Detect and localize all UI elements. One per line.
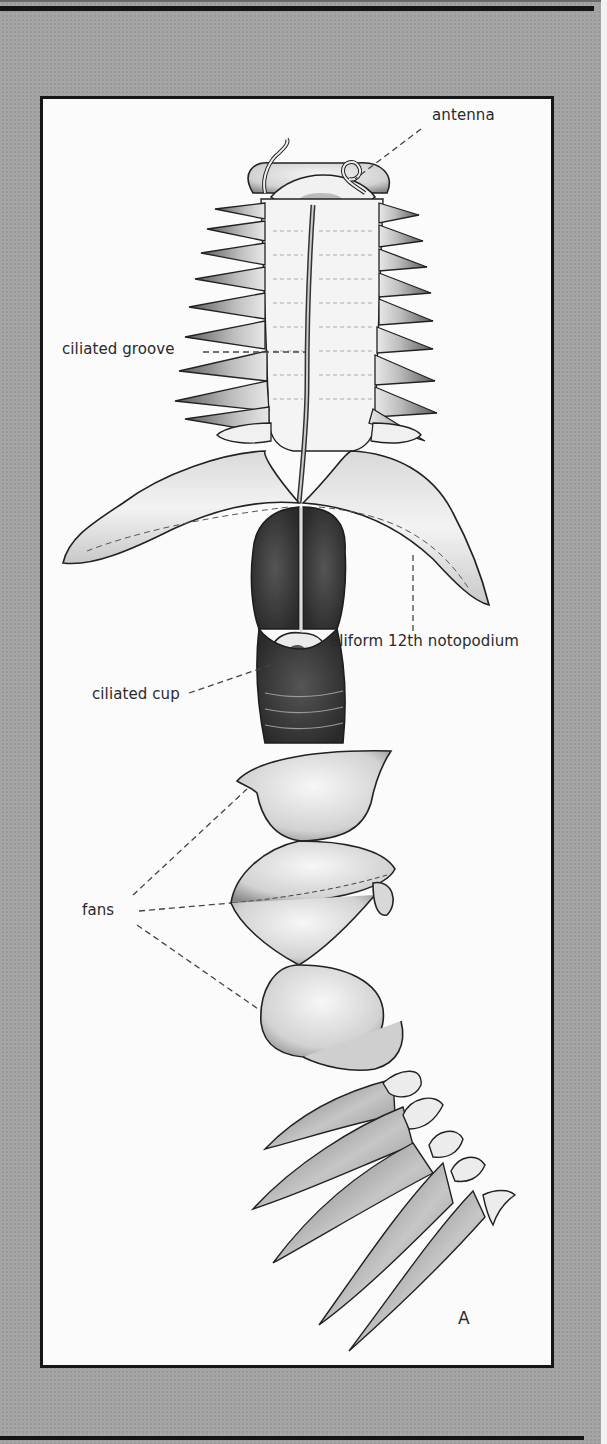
dark-segments bbox=[251, 507, 345, 743]
label-ciliated-groove: ciliated groove bbox=[62, 340, 175, 358]
label-antenna: antenna bbox=[432, 106, 495, 124]
label-fans: fans bbox=[82, 901, 114, 919]
worm-illustration bbox=[43, 99, 551, 1365]
fans-leader-2 bbox=[139, 903, 231, 911]
top-rule bbox=[0, 6, 594, 11]
left-notopodia bbox=[175, 203, 271, 443]
label-ciliated-cup: ciliated cup bbox=[92, 685, 180, 703]
fan-1 bbox=[237, 751, 391, 841]
fans bbox=[231, 751, 403, 1070]
right-notopodia bbox=[369, 203, 437, 443]
top-thin-rule bbox=[0, 0, 601, 2]
antenna-leader bbox=[355, 129, 421, 179]
gray-panel: antenna ciliated groove aliform 12th not… bbox=[0, 0, 601, 1444]
panel-letter: A bbox=[458, 1308, 470, 1328]
fans-leader-1 bbox=[133, 789, 247, 895]
tail-segments bbox=[253, 1071, 515, 1351]
fan-2 bbox=[231, 841, 395, 904]
label-aliform-notopodium: aliform 12th notopodium bbox=[330, 632, 519, 650]
bottom-rule bbox=[0, 1436, 584, 1440]
fans-leader-3 bbox=[137, 925, 261, 1011]
figure-frame bbox=[40, 96, 554, 1368]
